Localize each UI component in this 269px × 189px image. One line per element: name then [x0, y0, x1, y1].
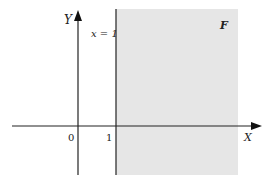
- region-label: F: [219, 19, 229, 32]
- origin-label: 0: [68, 132, 74, 143]
- tick-label-1: 1: [106, 132, 112, 143]
- x-axis-arrow-icon: [251, 122, 262, 130]
- diagram-canvas: Y x = 1 F 0 1 X: [0, 0, 269, 189]
- region-f: [116, 9, 238, 175]
- x-axis-label: X: [243, 131, 253, 144]
- y-axis-label: Y: [64, 13, 73, 27]
- y-axis-arrow-icon: [74, 10, 82, 21]
- line-label: x = 1: [91, 28, 118, 39]
